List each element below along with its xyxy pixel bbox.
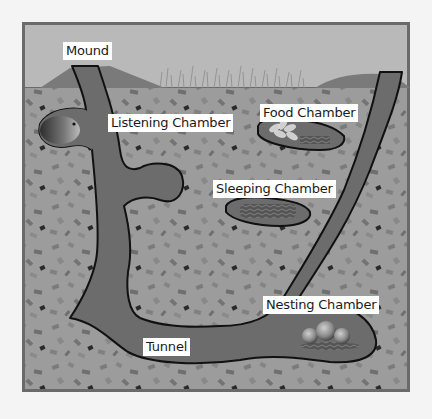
label-nesting-chamber: Nesting Chamber bbox=[263, 296, 379, 314]
burrow-diagram bbox=[0, 0, 432, 419]
label-mound: Mound bbox=[63, 42, 112, 60]
label-tunnel: Tunnel bbox=[143, 338, 190, 356]
sleeping-bedding bbox=[240, 204, 296, 218]
label-listening-chamber: Listening Chamber bbox=[108, 114, 233, 132]
label-food-chamber: Food Chamber bbox=[260, 104, 358, 122]
listening-animal bbox=[40, 116, 80, 144]
label-sleeping-chamber: Sleeping Chamber bbox=[213, 180, 336, 198]
